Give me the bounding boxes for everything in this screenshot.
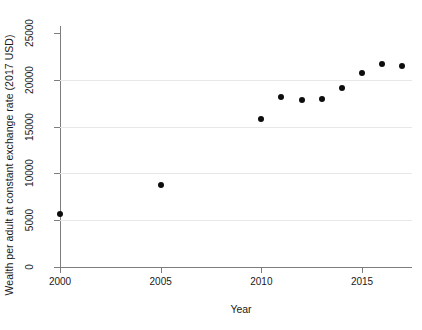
gridline <box>60 220 412 221</box>
x-axis-tick-label: 2005 <box>141 276 181 287</box>
y-axis-tick-mark <box>54 33 60 34</box>
x-axis-tick-mark <box>362 268 363 273</box>
y-axis-tick-mark <box>54 173 60 174</box>
y-axis-tick-label: 20000 <box>24 60 36 100</box>
y-axis-tick-label: 0 <box>24 247 36 287</box>
x-axis-tick-label: 2000 <box>40 276 80 287</box>
data-point <box>319 96 325 102</box>
data-point <box>158 182 164 188</box>
gridline <box>60 80 412 81</box>
y-axis-tick-mark <box>54 220 60 221</box>
plot-area <box>60 20 412 267</box>
x-axis-tick-mark <box>60 268 61 273</box>
gridline <box>60 173 412 174</box>
y-axis-title: Wealth per adult at constant exchange ra… <box>0 0 18 330</box>
x-axis-title: Year <box>60 303 422 315</box>
y-axis-tick-mark <box>54 127 60 128</box>
gridline <box>60 127 412 128</box>
data-point <box>379 61 385 67</box>
x-axis-line <box>60 267 412 268</box>
y-axis-tick-label: 10000 <box>24 153 36 193</box>
data-point <box>57 211 63 217</box>
x-axis-tick-mark <box>161 268 162 273</box>
data-point <box>399 63 405 69</box>
y-axis-tick-label: 25000 <box>24 13 36 53</box>
y-axis-tick-label: 15000 <box>24 107 36 147</box>
x-axis-tick-label: 2015 <box>342 276 382 287</box>
y-axis-tick-label: 5000 <box>24 200 36 240</box>
scatter-chart-figure: Wealth per adult at constant exchange ra… <box>0 0 422 330</box>
x-axis-tick-mark <box>261 268 262 273</box>
y-axis-tick-mark <box>54 80 60 81</box>
x-axis-tick-label: 2010 <box>241 276 281 287</box>
